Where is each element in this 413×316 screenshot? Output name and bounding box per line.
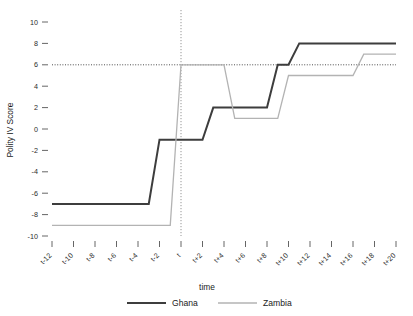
x-tick-label: t+16 [338, 251, 354, 267]
x-tick-label: t+4 [212, 251, 226, 265]
legend-label-ghana: Ghana [172, 298, 198, 308]
y-tick-label: 8 [34, 39, 38, 48]
x-axis-tick-marks [52, 241, 396, 247]
y-tick-label: -4 [32, 167, 38, 176]
x-tick-label: t-10 [60, 251, 75, 266]
y-axis-tick-labels: 1086420-2-4-6-8-10 [28, 18, 38, 241]
y-axis-tick-marks [42, 22, 48, 236]
x-tick-label: t+12 [295, 251, 311, 267]
x-axis-title: time [199, 282, 215, 292]
x-tick-label: t [175, 251, 183, 259]
y-tick-label: -8 [32, 210, 38, 219]
y-tick-label: -10 [28, 232, 38, 241]
x-tick-label: t-4 [127, 251, 139, 263]
y-tick-label: 4 [34, 82, 38, 91]
y-axis-title: Polity IV Score [5, 102, 15, 157]
x-tick-label: t+14 [317, 251, 333, 267]
x-tick-label: t-12 [38, 251, 53, 266]
chart-canvas: 1086420-2-4-6-8-10 t-12t-10t-8t-6t-4t-2t… [0, 0, 413, 316]
data-series [52, 43, 396, 225]
x-tick-label: t+2 [190, 251, 204, 265]
polity-iv-line-chart: 1086420-2-4-6-8-10 t-12t-10t-8t-6t-4t-2t… [0, 0, 413, 316]
legend-label-zambia: Zambia [263, 298, 292, 308]
x-tick-label: t+18 [360, 251, 376, 267]
x-axis-tick-labels: t-12t-10t-8t-6t-4t-2tt+2t+4t+6t+8t+10t+1… [38, 251, 397, 267]
y-tick-label: -2 [32, 146, 38, 155]
x-tick-label: t-8 [84, 251, 96, 263]
y-tick-label: -6 [32, 189, 38, 198]
y-tick-label: 0 [34, 125, 38, 134]
chart-legend: Ghana Zambia [127, 298, 292, 308]
y-tick-label: 10 [30, 18, 38, 27]
series-line-zambia [52, 54, 396, 225]
y-tick-label: 6 [34, 60, 38, 69]
x-tick-label: t-2 [149, 251, 161, 263]
y-tick-label: 2 [34, 103, 38, 112]
x-tick-label: t+20 [381, 251, 397, 267]
x-tick-label: t-6 [106, 251, 118, 263]
x-tick-label: t+8 [255, 251, 269, 265]
x-tick-label: t+10 [274, 251, 290, 267]
x-tick-label: t+6 [233, 251, 247, 265]
